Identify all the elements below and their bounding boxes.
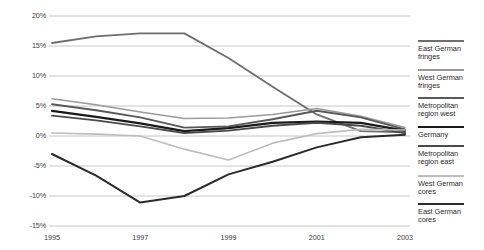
x-axis-tick-label: 2003 xyxy=(385,233,425,242)
y-axis-tick-label: -15% xyxy=(8,221,46,230)
legend-item[interactable]: East German fringes xyxy=(418,40,482,61)
y-axis-tick-label: 0% xyxy=(8,131,46,140)
legend-label: Germany xyxy=(418,131,482,139)
legend-swatch-icon xyxy=(418,126,464,128)
x-axis-tick-label: 1999 xyxy=(209,233,249,242)
legend-item[interactable]: Metropolitan region west xyxy=(418,97,482,118)
x-axis-tick-label: 1995 xyxy=(32,233,72,242)
y-axis-tick-label: 10% xyxy=(8,71,46,80)
legend-swatch-icon xyxy=(418,40,464,42)
legend-label: Metropolitan region east xyxy=(418,150,482,167)
x-axis-tick-label: 1997 xyxy=(120,233,160,242)
chart-canvas xyxy=(0,0,484,250)
legend-swatch-icon xyxy=(418,97,464,99)
legend-label: West German cores xyxy=(418,180,482,197)
series-line-5 xyxy=(52,129,405,160)
series-line-6 xyxy=(52,135,405,203)
legend-swatch-icon xyxy=(418,203,464,205)
legend-swatch-icon xyxy=(418,69,464,71)
y-axis-tick-label: -10% xyxy=(8,191,46,200)
y-axis-tick-label: 15% xyxy=(8,41,46,50)
legend-item[interactable]: East German cores xyxy=(418,203,482,225)
legend-item[interactable]: Metropolitan region east xyxy=(418,145,482,166)
legend-item[interactable]: Germany xyxy=(418,126,482,139)
legend-item[interactable]: West German fringes xyxy=(418,69,482,90)
legend-item[interactable]: West German cores xyxy=(418,175,482,196)
legend-swatch-icon xyxy=(418,145,464,147)
legend-label: Metropolitan region west xyxy=(418,102,482,119)
y-axis-tick-label: 5% xyxy=(8,101,46,110)
x-axis-tick-label: 2001 xyxy=(297,233,337,242)
y-axis-tick-label: -5% xyxy=(8,161,46,170)
y-axis-tick-label: 20% xyxy=(8,11,46,20)
legend-label: West German fringes xyxy=(418,74,482,91)
line-chart: 20%15%10%5%0%-5%-10%-15% 199519971999200… xyxy=(0,0,484,250)
legend-label: East German cores xyxy=(418,208,482,225)
legend-label: East German fringes xyxy=(418,45,482,62)
legend-swatch-icon xyxy=(418,175,464,177)
